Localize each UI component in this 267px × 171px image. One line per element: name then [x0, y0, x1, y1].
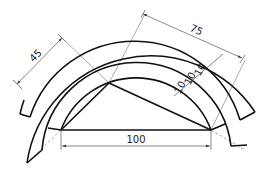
dimension-base-label: 100: [126, 134, 145, 145]
triangle: [61, 83, 211, 130]
dimension-right: [141, 10, 245, 63]
dimension-left: [13, 34, 66, 89]
arc-outer-1: [30, 41, 240, 120]
dimension-left-label: 45: [27, 47, 44, 64]
technical-drawing: 100 45 75 10 10 10: [0, 0, 267, 171]
